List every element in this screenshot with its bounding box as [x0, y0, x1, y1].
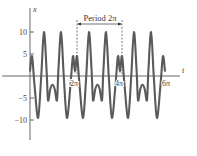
arrowhead-left-icon: [77, 23, 81, 26]
y-axis-label: x: [32, 4, 37, 14]
x-tick-label-2pi: 2π: [70, 79, 78, 88]
x-tick-label-6pi: 6π: [162, 79, 170, 88]
period-annotation: Period 2π: [77, 12, 122, 74]
y-tick-label-neg10: −10: [14, 116, 27, 125]
x-tick-label-4pi: 4π: [115, 79, 123, 88]
arrowhead-right-icon: [118, 23, 122, 26]
y-tick-label-10: 10: [19, 28, 27, 37]
periodic-function-chart: x t 10 5 −5 −10 Period 2π 2π 4π 6π: [0, 0, 197, 156]
y-tick-label-5: 5: [23, 50, 27, 59]
period-label: Period 2π: [84, 13, 118, 23]
function-curve: [30, 32, 165, 118]
x-axis-label: t: [182, 65, 185, 75]
y-tick-label-neg5: −5: [18, 94, 27, 103]
y-ticks: 10 5 −5 −10: [14, 28, 34, 125]
